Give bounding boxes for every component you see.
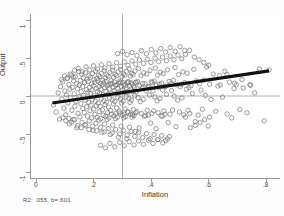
- x-axis-spine: [30, 178, 280, 179]
- y-axis-spine: [30, 14, 31, 178]
- y-axis-tick: [26, 96, 30, 97]
- regression-line-layer: [30, 14, 280, 178]
- x-axis-tick-label: .6: [198, 181, 218, 188]
- chart-annotation: R2: .055, b=.601: [23, 197, 71, 203]
- y-axis-tick: [26, 172, 30, 173]
- y-axis-tick: [26, 20, 30, 21]
- y-axis-tick-label: -.5: [19, 133, 26, 149]
- y-axis-tick: [26, 58, 30, 59]
- scatter-plot-figure: -1-.50.510.2.4.6.8 Output Inflation R2: …: [0, 0, 284, 216]
- y-axis-tick-label: -1: [19, 170, 26, 186]
- regression-line: [52, 71, 269, 103]
- x-axis-tick-label: .8: [256, 181, 276, 188]
- x-axis-tick-label: 0: [26, 181, 46, 188]
- y-axis-tick: [26, 134, 30, 135]
- y-axis-tick-label: .5: [19, 57, 26, 73]
- y-axis-tick-label: 1: [19, 19, 26, 35]
- y-axis-tick-label: 0: [19, 95, 26, 111]
- x-axis-tick-label: .2: [83, 181, 103, 188]
- plot-area: [30, 14, 280, 178]
- x-axis-tick-label: .4: [141, 181, 161, 188]
- y-axis-title: Output: [0, 53, 7, 76]
